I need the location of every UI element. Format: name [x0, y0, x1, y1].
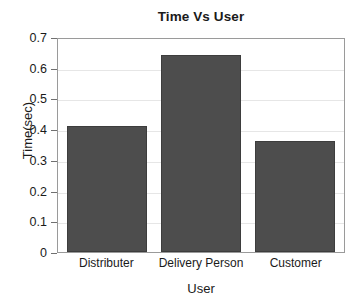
- y-tick-label: 0.6: [30, 62, 47, 76]
- x-tick-label: Delivery Person: [154, 256, 249, 270]
- bar: [255, 141, 336, 252]
- chart-title: Time Vs User: [57, 9, 345, 24]
- plot-area: [57, 38, 345, 253]
- y-tick-label: 0.3: [30, 154, 47, 168]
- y-tick-mark: [51, 253, 57, 254]
- y-tick-label: 0.1: [30, 215, 47, 229]
- bar-chart-figure: Time Vs User Time(sec) 00.10.20.30.40.50…: [0, 0, 360, 308]
- bar: [161, 55, 242, 252]
- y-tick-label: 0.5: [30, 92, 47, 106]
- bars-layer: [58, 39, 344, 252]
- bar-slot: [154, 39, 248, 252]
- x-tick-label: Distributer: [59, 256, 154, 270]
- y-tick-label: 0.2: [30, 185, 47, 199]
- y-tick-label: 0: [40, 246, 47, 260]
- x-axis-title: User: [57, 281, 345, 296]
- bar: [67, 126, 148, 252]
- bar-slot: [248, 39, 342, 252]
- y-tick-label: 0.7: [30, 31, 47, 45]
- x-tick-label: Customer: [248, 256, 343, 270]
- y-tick-label: 0.4: [30, 123, 47, 137]
- x-axis-tick-labels: DistributerDelivery PersonCustomer: [57, 256, 345, 270]
- bar-slot: [60, 39, 154, 252]
